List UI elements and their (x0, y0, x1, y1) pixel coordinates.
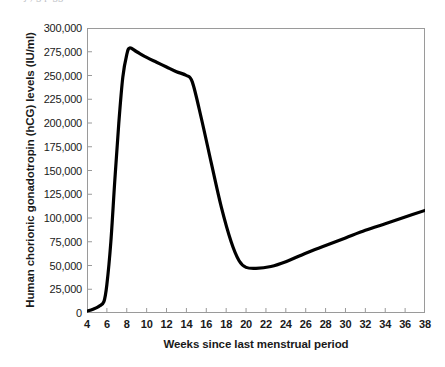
x-tick-label: 38 (410, 316, 440, 332)
y-tick-label: 225,000 (20, 92, 82, 106)
hcg-level-line (87, 48, 425, 311)
cut-off-text: j , g p gg (24, 0, 63, 2)
y-axis-tick-labels: 025,00050,00075,000100,000125,000150,000… (20, 20, 82, 320)
x-axis-tick-labels: 468101214161820222426283032343638 (0, 316, 445, 332)
y-tick-label: 200,000 (20, 116, 82, 130)
plot-area (87, 28, 425, 313)
hcg-levels-chart: j , g p gg Human chorionic gonadotropin … (0, 0, 445, 367)
y-tick-label: 150,000 (20, 164, 82, 178)
y-tick-label: 300,000 (20, 21, 82, 35)
x-axis-title: Weeks since last menstrual period (87, 338, 425, 350)
y-tick-label: 125,000 (20, 187, 82, 201)
plot-svg (87, 28, 425, 313)
y-tick-label: 50,000 (20, 259, 82, 273)
y-tick-label: 175,000 (20, 140, 82, 154)
y-tick-label: 75,000 (20, 235, 82, 249)
y-tick-label: 100,000 (20, 211, 82, 225)
y-tick-label: 250,000 (20, 69, 82, 83)
y-tick-label: 25,000 (20, 282, 82, 296)
page-text-sliver: j , g p gg (0, 0, 445, 13)
y-tick-label: 275,000 (20, 45, 82, 59)
